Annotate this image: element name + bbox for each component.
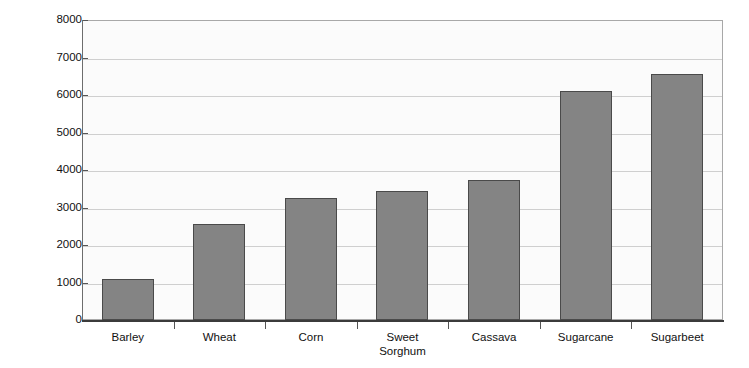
x-tick-label: Corn xyxy=(265,331,357,345)
x-tick-label: Wheat xyxy=(174,331,266,345)
x-tick-mark xyxy=(631,322,632,329)
x-tick-label: Sugarbeet xyxy=(631,331,723,345)
x-axis-line xyxy=(82,320,724,322)
bar[interactable] xyxy=(102,279,154,320)
bar-slot xyxy=(82,20,174,320)
x-tick-label: Sugarcane xyxy=(540,331,632,345)
bar[interactable] xyxy=(376,191,428,320)
y-axis-ticks: 010002000300040005000600070008000 xyxy=(20,20,82,320)
bar-slot xyxy=(631,20,723,320)
bar-slot xyxy=(174,20,266,320)
bar[interactable] xyxy=(560,91,612,320)
x-tick-mark xyxy=(357,322,358,329)
x-tick-mark xyxy=(174,322,175,329)
bar-slot xyxy=(357,20,449,320)
y-tick-label: 4000 xyxy=(36,163,82,175)
y-tick-label: 7000 xyxy=(36,51,82,63)
bar[interactable] xyxy=(468,180,520,320)
y-tick-label: 1000 xyxy=(36,276,82,288)
bar-chart: Liters per hectare 010002000300040005000… xyxy=(0,0,749,368)
bar-slot xyxy=(448,20,540,320)
bar-slot xyxy=(540,20,632,320)
bar[interactable] xyxy=(285,198,337,320)
y-tick-label: 8000 xyxy=(36,13,82,25)
bar[interactable] xyxy=(193,224,245,320)
x-tick-mark xyxy=(448,322,449,329)
x-tick-mark xyxy=(540,322,541,329)
x-tick-label: Cassava xyxy=(448,331,540,345)
y-tick-label: 5000 xyxy=(36,126,82,138)
y-tick-label: 6000 xyxy=(36,88,82,100)
bar[interactable] xyxy=(651,74,703,320)
y-tick-label: 2000 xyxy=(36,238,82,250)
bars-layer xyxy=(82,20,723,320)
x-tick-label: Barley xyxy=(82,331,174,345)
bar-slot xyxy=(265,20,357,320)
y-tick-label: 0 xyxy=(36,313,82,325)
x-tick-mark xyxy=(265,322,266,329)
x-tick-label: Sweet Sorghum xyxy=(357,331,449,358)
y-tick-label: 3000 xyxy=(36,201,82,213)
